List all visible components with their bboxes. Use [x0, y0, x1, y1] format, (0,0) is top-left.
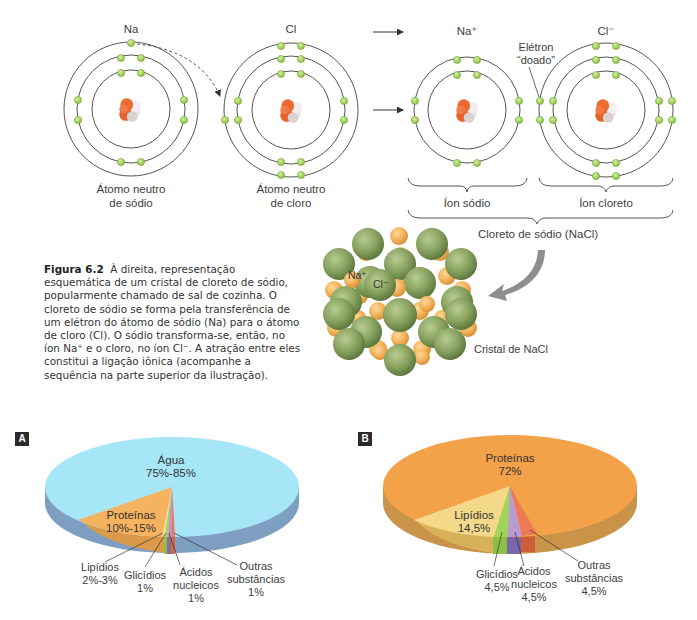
pie-b-outras-name-2: substâncias — [565, 572, 624, 584]
pie-a-acidos-value: 1% — [188, 592, 204, 604]
sodium-ion-symbol: Na⁺ — [457, 25, 478, 37]
pie-a-proteinas-name: Proteínas — [106, 509, 155, 521]
pie-a-agua-name: Água — [158, 454, 185, 466]
pie-a-agua-value: 75%-85% — [146, 467, 196, 479]
pie-a-proteinas-value: 10%-15% — [106, 522, 156, 534]
chloride-ion-symbol: Cl⁻ — [598, 25, 615, 37]
electron-transfer-arrow — [137, 44, 220, 96]
pie-b-outras-name-1: Outras — [577, 559, 611, 571]
pie-b-lipidios-name: Lipídios — [454, 509, 494, 521]
pie-b-glicidios-value: 4,5% — [484, 581, 509, 593]
chlorine-symbol: Cl — [286, 23, 297, 35]
sodium-atom-label-2: de sódio — [109, 197, 152, 209]
chloride-ion: Cl⁻ — [536, 25, 675, 180]
crystal-cl-label: Cl⁻ — [373, 278, 389, 290]
pie-a-lipidios-name: Lipídios — [81, 561, 119, 573]
sodium-ion: Na⁺ — [411, 25, 522, 167]
chlorine-atom-label-1: Átomo neutro — [256, 183, 325, 195]
pie-a-glicidios-name: Glicídios — [124, 569, 167, 581]
brace-ion-chloride — [539, 178, 673, 192]
pie-b-acidos-name-2: nucleicos — [511, 578, 557, 590]
pie-b-acidos-name-1: Ácidos — [517, 565, 551, 577]
pie-a-acidos-name-1: Ácidos — [179, 566, 213, 578]
nacl-crystal: Na⁺ Cl⁻ — [323, 227, 477, 376]
crystal-na-label: Na⁺ — [348, 269, 367, 281]
pie-a-acidos-name-2: nucleicos — [173, 579, 219, 591]
pie-b-lipidios-value: 14,5% — [458, 522, 491, 534]
sodium-chloride-label: Cloreto de sódio (NaCl) — [478, 228, 598, 240]
nucleus-icon — [119, 98, 141, 122]
figure-caption: Figura 6.2 À direita, representação esqu… — [44, 263, 304, 382]
nucleus-icon — [456, 99, 478, 123]
sodium-symbol: Na — [124, 23, 139, 35]
curved-arrow-icon — [488, 250, 545, 301]
donated-electron-label-2: “doado” — [517, 54, 555, 66]
donated-electron-pointer — [529, 67, 539, 97]
ion-chloride-label: Íon cloreto — [579, 197, 633, 209]
pie-b-proteinas-value: 72% — [498, 465, 521, 477]
chlorine-atom: Cl Átomo neutro de cloro — [221, 23, 358, 209]
pie-chart-a: Água 75%-85% Proteínas 10%-15% Lipídios … — [45, 437, 299, 604]
pie-b-proteinas-name: Proteínas — [485, 452, 534, 464]
nucleus-icon — [280, 99, 302, 123]
crystal-caption: Cristal de NaCl — [474, 343, 548, 355]
figure-caption-text: À direita, representação esquemática de … — [44, 263, 300, 381]
pie-b-acidos-value: 4,5% — [521, 591, 546, 603]
pie-a-lipidios-value: 2%-3% — [82, 574, 118, 586]
donated-electron-label-1: Elétron — [519, 41, 554, 53]
pie-b-outras-value: 4,5% — [581, 585, 606, 597]
brace-ion-sodium — [408, 178, 527, 192]
ion-sodium-label: Íon sódio — [444, 197, 491, 209]
pie-a-outras-value: 1% — [248, 586, 264, 598]
pie-chart-b: Proteínas 72% Lipídios 14,5% Glicídios 4… — [383, 435, 637, 603]
figure-caption-title: Figura 6.2 — [44, 263, 104, 275]
pie-a-outras-name-1: Outras — [239, 560, 273, 572]
sodium-atom-label-1: Átomo neutro — [96, 183, 165, 195]
chlorine-atom-label-2: de cloro — [271, 197, 312, 209]
panel-b-badge: B — [358, 432, 372, 446]
brace-sodium-chloride — [408, 210, 673, 224]
pie-a-glicidios-value: 1% — [137, 582, 153, 594]
sodium-atom: Na Átomo neutro de sódio — [64, 23, 198, 209]
nucleus-icon — [595, 99, 617, 123]
panel-a-badge: A — [15, 432, 29, 446]
pie-a-outras-name-2: substâncias — [227, 573, 286, 585]
